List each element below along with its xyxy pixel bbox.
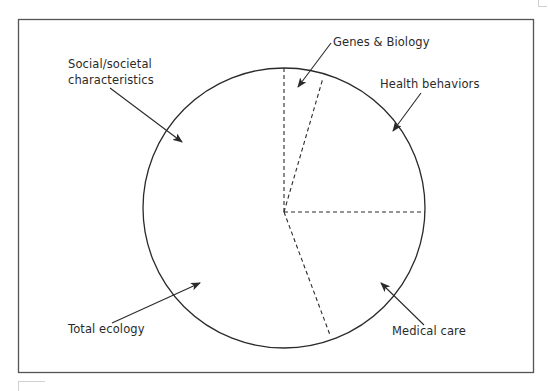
label-arrows bbox=[110, 43, 424, 325]
segment-boundaries bbox=[284, 68, 425, 335]
ecology-arrow bbox=[112, 283, 200, 323]
label-social-line1: Social/societal bbox=[68, 57, 152, 71]
label-medical-care: Medical care bbox=[392, 324, 466, 338]
boundary-line-genes-health bbox=[284, 78, 323, 212]
boundary-line-lower bbox=[284, 212, 330, 335]
health-arrow bbox=[393, 93, 421, 131]
genes-arrow bbox=[298, 43, 331, 87]
label-health-behaviors: Health behaviors bbox=[380, 77, 480, 91]
corner-mark-top-right bbox=[538, 0, 547, 7]
social-arrow bbox=[110, 88, 182, 142]
label-genes-biology: Genes & Biology bbox=[333, 35, 430, 49]
label-total-ecology: Total ecology bbox=[68, 322, 145, 336]
corner-mark-bottom-left bbox=[18, 381, 45, 391]
label-social-line2: characteristics bbox=[68, 73, 154, 87]
